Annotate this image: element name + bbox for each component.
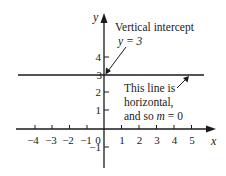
horizontal-line-diagram: −4 −3 −2 −1 0 1 2 3 4 5 4 3 2 1 −1 x y V…	[0, 0, 226, 176]
x-tick-label: 1	[119, 134, 125, 146]
horizontal-annotation-line1: This line is	[124, 82, 176, 94]
x-axis-label: x	[210, 134, 217, 148]
x-tick-label: −4	[27, 134, 39, 146]
intercept-arrow	[108, 47, 126, 71]
intercept-annotation-title: Vertical intercept	[115, 21, 195, 34]
x-tick-label: 4	[172, 134, 178, 146]
y-axis-label: y	[92, 10, 99, 24]
x-tick-label: 5	[189, 134, 195, 146]
x-axis-arrow-icon	[206, 126, 216, 133]
horizontal-arrow	[177, 79, 186, 88]
y-axis-arrow-icon	[101, 13, 108, 23]
y-tick-label: 2	[96, 86, 102, 98]
coordinate-plane: −4 −3 −2 −1 0 1 2 3 4 5 4 3 2 1 −1 x y V…	[0, 0, 226, 176]
y-tick-label: 1	[96, 104, 102, 116]
x-tick-label: −3	[45, 134, 57, 146]
horizontal-annotation-line3: and so m = 0	[124, 110, 183, 122]
x-tick-labels: −4 −3 −2 −1 0 1 2 3 4 5	[27, 134, 195, 146]
y-tick-label: 4	[96, 51, 102, 63]
intercept-annotation-value: y = 3	[117, 35, 143, 48]
x-tick-label: 3	[154, 134, 160, 146]
x-tick-label: 2	[137, 134, 143, 146]
x-tick-label: −2	[62, 134, 74, 146]
y-tick-label: −1	[89, 141, 101, 153]
y-tick-label: 3	[97, 69, 103, 81]
horizontal-annotation-line2: horizontal,	[124, 96, 174, 109]
